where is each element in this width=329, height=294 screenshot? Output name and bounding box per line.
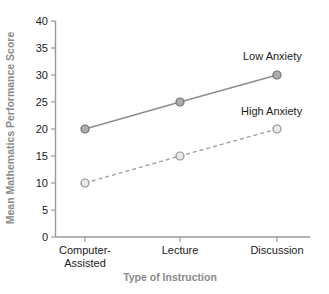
y-axis-label: Mean Mathematics Performance Score (4, 32, 16, 225)
y-tick-label: 20 (36, 123, 48, 135)
y-tick-label: 0 (42, 231, 48, 243)
x-tick-label-computer-assisted: Computer- (59, 244, 111, 256)
y-tick-label: 10 (36, 177, 48, 189)
x-tick-label-lecture: Lecture (162, 244, 199, 256)
data-point-low-anxiety-lecture (176, 98, 184, 106)
data-point-low-anxiety-discussion (273, 71, 281, 79)
line-chart: Mean Mathematics Performance Score 0 5 1… (0, 0, 329, 294)
chart-canvas: Mean Mathematics Performance Score 0 5 1… (0, 0, 329, 294)
series-annotation-low-anxiety: Low Anxiety (243, 50, 302, 62)
data-point-high-anxiety-discussion (273, 125, 281, 133)
x-tick-group (85, 237, 277, 242)
y-tick-label: 5 (42, 204, 48, 216)
y-tick-label: 30 (36, 69, 48, 81)
data-point-low-anxiety-computer-assisted (81, 125, 89, 133)
x-category-labels: Computer- Assisted Lecture Discussion (59, 244, 304, 269)
y-tick-label: 25 (36, 96, 48, 108)
data-point-high-anxiety-lecture (176, 152, 184, 160)
y-tick-label: 40 (36, 15, 48, 27)
y-tick-group: 0 5 10 15 20 25 30 35 40 (36, 15, 56, 243)
series-annotation-high-anxiety: High Anxiety (241, 105, 303, 117)
y-tick-label: 35 (36, 42, 48, 54)
y-tick-label: 15 (36, 150, 48, 162)
data-point-high-anxiety-computer-assisted (81, 179, 89, 187)
x-tick-label-computer-assisted-line2: Assisted (64, 257, 106, 269)
x-axis-label: Type of Instruction (123, 271, 217, 283)
x-tick-label-discussion: Discussion (250, 244, 303, 256)
